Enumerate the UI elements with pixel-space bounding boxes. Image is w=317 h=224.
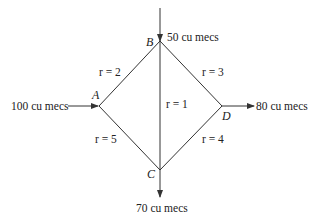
node-label-c: C [147,167,156,181]
node-label-d: D [221,109,231,123]
flow-network-diagram: B A D C r = 2 r = 3 r = 1 r = 5 r = 4 10… [0,0,317,224]
edge-label-c-d: r = 4 [202,133,224,145]
edge-label-a-b: r = 2 [99,66,121,78]
edge-label-a-c: r = 5 [95,133,117,145]
node-label-a: A [91,88,100,102]
node-label-b: B [146,35,154,49]
flow-label-c-out: 70 cu mecs [136,202,188,214]
flow-label-d-out: 80 cu mecs [256,100,308,112]
flow-label-b-in: 50 cu mecs [167,31,219,43]
edge-label-b-c: r = 1 [166,98,188,110]
edge-label-b-d: r = 3 [202,66,224,78]
flow-label-a-in: 100 cu mecs [11,100,69,112]
